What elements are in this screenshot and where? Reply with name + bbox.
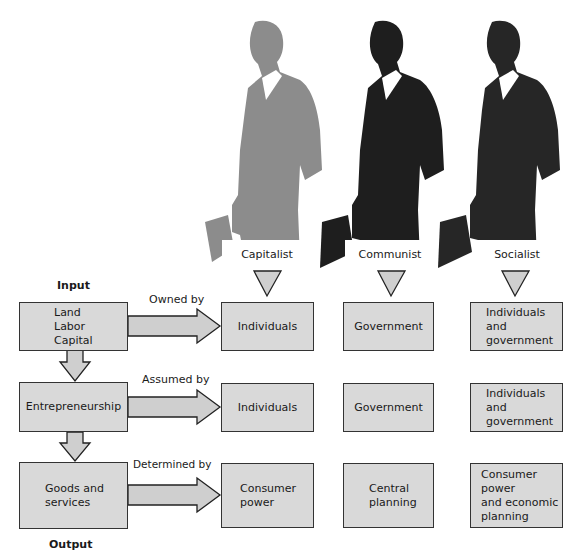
cell-text: Central planning <box>369 482 417 510</box>
cell-text: Individuals and government <box>486 387 553 429</box>
communist-down-triangle <box>378 271 405 296</box>
cell-text: Individuals <box>238 320 297 334</box>
cell-text: Government <box>354 401 423 415</box>
socialist-down-triangle <box>502 271 529 296</box>
communist-row2-box: Government <box>343 383 434 432</box>
factor-box-land-labor-capital: Land Labor Capital <box>19 302 128 351</box>
column-label-socialist: Socialist <box>472 248 562 261</box>
cell-text: Consumer power <box>240 482 296 510</box>
relation-label-owned-by: Owned by <box>149 293 204 306</box>
capitalist-row1-box: Individuals <box>221 302 314 351</box>
communist-row3-box: Central planning <box>343 463 434 528</box>
communist-businessman-figure <box>320 21 444 268</box>
cell-text: Consumer power and economic planning <box>481 468 558 524</box>
factor-text: Land Labor Capital <box>54 306 93 348</box>
down-arrow-2 <box>60 432 90 461</box>
socialist-row2-box: Individuals and government <box>470 383 563 432</box>
communist-row1-box: Government <box>343 302 434 351</box>
down-arrow-1 <box>60 350 90 381</box>
socialist-row3-box: Consumer power and economic planning <box>470 463 563 528</box>
input-label: Input <box>57 279 90 292</box>
capitalist-down-triangle <box>254 271 281 296</box>
cell-text: Individuals <box>238 401 297 415</box>
relation-label-assumed-by: Assumed by <box>142 373 209 386</box>
relation-label-determined-by: Determined by <box>133 458 211 470</box>
socialist-row1-box: Individuals and government <box>470 302 563 351</box>
column-label-communist: Communist <box>345 248 435 261</box>
factor-text: Goods and services <box>45 482 104 510</box>
capitalist-row3-box: Consumer power <box>221 463 314 528</box>
column-label-capitalist: Capitalist <box>222 248 312 261</box>
owned-by-arrow <box>128 309 220 343</box>
cell-text: Government <box>354 320 423 334</box>
capitalist-row2-box: Individuals <box>221 383 314 432</box>
output-label: Output <box>49 538 92 551</box>
capitalist-businessman-figure <box>205 21 322 262</box>
cell-text: Individuals and government <box>486 306 553 348</box>
determined-by-arrow <box>128 478 220 512</box>
assumed-by-arrow <box>128 390 220 424</box>
factor-box-goods-services: Goods and services <box>19 462 128 529</box>
socialist-businessman-figure <box>438 21 560 268</box>
factor-box-entrepreneurship: Entrepreneurship <box>19 382 128 432</box>
factor-text: Entrepreneurship <box>26 400 121 414</box>
